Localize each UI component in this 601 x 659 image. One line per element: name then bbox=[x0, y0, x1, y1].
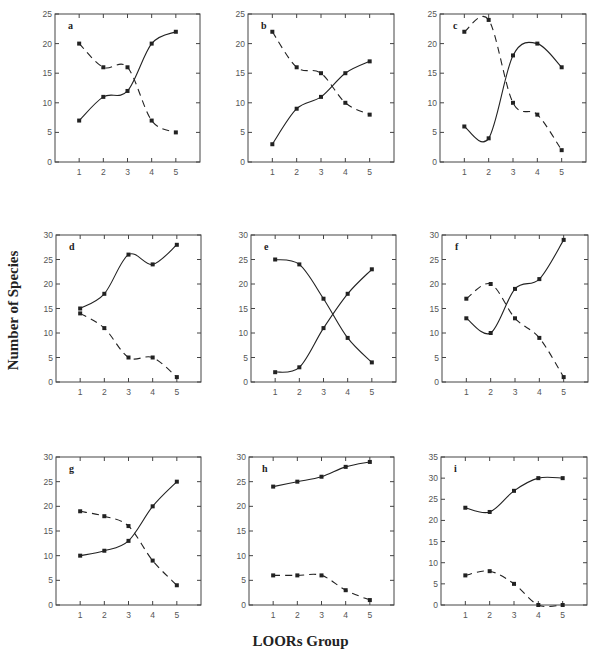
y-tick-label: 25 bbox=[44, 477, 54, 487]
data-point-marker bbox=[513, 316, 517, 320]
x-tick-label: 3 bbox=[126, 610, 131, 620]
panel-g: 05101520253012345g bbox=[44, 452, 201, 620]
x-tick-label: 3 bbox=[126, 387, 131, 397]
x-tick-label: 4 bbox=[343, 167, 348, 177]
data-point-marker bbox=[126, 89, 130, 93]
y-tick-label: 20 bbox=[429, 515, 439, 525]
data-point-marker bbox=[175, 480, 179, 484]
x-tick-label: 2 bbox=[102, 387, 107, 397]
data-point-marker bbox=[368, 598, 372, 602]
y-tick-label: 0 bbox=[434, 377, 439, 387]
data-point-marker bbox=[322, 326, 326, 330]
y-tick-label: 10 bbox=[429, 558, 439, 568]
series-line-dashed bbox=[79, 44, 176, 133]
data-point-marker bbox=[489, 282, 493, 286]
data-point-marker bbox=[511, 53, 515, 57]
plot-frame bbox=[249, 457, 394, 605]
data-point-marker bbox=[101, 65, 105, 69]
data-point-marker bbox=[175, 375, 179, 379]
data-point-marker bbox=[344, 465, 348, 469]
x-tick-label: 4 bbox=[536, 610, 541, 620]
panel-i: 0510152025303512345i bbox=[429, 452, 587, 620]
x-tick-label: 4 bbox=[537, 387, 542, 397]
y-tick-label: 25 bbox=[430, 255, 440, 265]
panel-b: 051015202512345b bbox=[236, 9, 394, 177]
y-tick-label: 0 bbox=[432, 157, 437, 167]
y-axis-label: Number of Species bbox=[4, 240, 24, 380]
data-point-marker bbox=[343, 101, 347, 105]
data-point-marker bbox=[150, 119, 154, 123]
x-tick-label: 2 bbox=[297, 387, 302, 397]
x-tick-label: 2 bbox=[102, 610, 107, 620]
data-point-marker bbox=[513, 287, 517, 291]
panel-label: i bbox=[454, 463, 457, 474]
plot-frame bbox=[251, 235, 396, 382]
x-tick-label: 4 bbox=[149, 167, 154, 177]
data-point-marker bbox=[271, 573, 275, 577]
y-tick-label: 20 bbox=[428, 39, 438, 49]
data-point-marker bbox=[537, 336, 541, 340]
panel-label: h bbox=[262, 463, 268, 474]
x-tick-label: 5 bbox=[174, 610, 179, 620]
x-tick-label: 2 bbox=[295, 610, 300, 620]
y-tick-label: 20 bbox=[239, 279, 249, 289]
series-line-solid bbox=[273, 462, 370, 487]
x-tick-label: 3 bbox=[512, 610, 517, 620]
x-tick-label: 1 bbox=[273, 387, 278, 397]
data-point-marker bbox=[511, 101, 515, 105]
y-tick-label: 30 bbox=[44, 452, 54, 462]
x-tick-label: 5 bbox=[369, 387, 374, 397]
series-line-solid bbox=[465, 477, 562, 512]
data-point-marker bbox=[368, 460, 372, 464]
data-point-marker bbox=[127, 253, 131, 257]
y-tick-label: 5 bbox=[48, 353, 53, 363]
series-line-dashed bbox=[80, 313, 177, 377]
x-tick-label: 1 bbox=[464, 387, 469, 397]
y-tick-label: 15 bbox=[44, 526, 54, 536]
data-point-marker bbox=[271, 485, 275, 489]
x-tick-label: 3 bbox=[513, 387, 518, 397]
x-tick-label: 2 bbox=[294, 167, 299, 177]
panel-h: 05101520253012345h bbox=[237, 452, 394, 620]
x-axis-label: LOORs Group bbox=[0, 633, 601, 650]
data-point-marker bbox=[151, 356, 155, 360]
panel-label: c bbox=[453, 20, 458, 31]
data-point-marker bbox=[370, 267, 374, 271]
data-point-marker bbox=[273, 370, 277, 374]
x-tick-label: 4 bbox=[150, 387, 155, 397]
y-tick-label: 30 bbox=[239, 230, 249, 240]
y-tick-label: 5 bbox=[47, 127, 52, 137]
y-tick-label: 20 bbox=[236, 39, 246, 49]
data-point-marker bbox=[464, 316, 468, 320]
data-point-marker bbox=[77, 42, 81, 46]
data-point-marker bbox=[127, 356, 131, 360]
data-point-marker bbox=[101, 95, 105, 99]
plot-frame bbox=[55, 14, 200, 162]
x-tick-label: 4 bbox=[345, 387, 350, 397]
y-tick-label: 15 bbox=[428, 68, 438, 78]
y-tick-label: 15 bbox=[239, 304, 249, 314]
series-line-solid bbox=[79, 32, 176, 121]
y-tick-label: 25 bbox=[236, 9, 246, 19]
data-point-marker bbox=[127, 539, 131, 543]
data-point-marker bbox=[102, 514, 106, 518]
data-point-marker bbox=[562, 238, 566, 242]
figure-canvas: 051015202512345a051015202512345b05101520… bbox=[0, 0, 601, 659]
data-point-marker bbox=[368, 113, 372, 117]
y-tick-label: 5 bbox=[434, 353, 439, 363]
y-tick-label: 10 bbox=[239, 328, 249, 338]
y-tick-label: 10 bbox=[44, 328, 54, 338]
y-tick-label: 0 bbox=[47, 157, 52, 167]
data-point-marker bbox=[561, 476, 565, 480]
plot-frame bbox=[56, 457, 201, 605]
data-point-marker bbox=[343, 71, 347, 75]
data-point-marker bbox=[151, 559, 155, 563]
plot-frame bbox=[442, 235, 588, 382]
y-tick-label: 30 bbox=[237, 452, 247, 462]
data-point-marker bbox=[320, 475, 324, 479]
y-tick-label: 15 bbox=[430, 304, 440, 314]
data-point-marker bbox=[560, 148, 564, 152]
series-line-solid bbox=[80, 482, 177, 556]
data-point-marker bbox=[535, 113, 539, 117]
data-point-marker bbox=[370, 360, 374, 364]
